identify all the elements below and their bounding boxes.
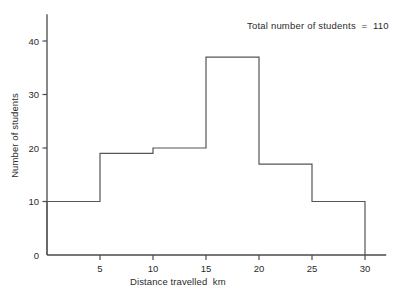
chart-figure: Total number of students = 110 Number of… — [0, 0, 420, 294]
histogram-outline — [47, 57, 365, 255]
x-tick-label: 10 — [148, 263, 159, 274]
y-tick-label: 40 — [28, 36, 39, 47]
y-tick-label: 0 — [34, 250, 39, 261]
tick-marks — [43, 41, 366, 260]
tick-labels: 01020304051015202530 — [28, 36, 370, 275]
x-tick-label: 25 — [307, 263, 318, 274]
x-tick-label: 30 — [360, 263, 371, 274]
histogram-bars — [47, 57, 365, 255]
y-tick-label: 30 — [28, 89, 39, 100]
x-tick-label: 15 — [201, 263, 212, 274]
x-tick-label: 20 — [254, 263, 265, 274]
x-tick-label: 5 — [97, 263, 102, 274]
y-tick-label: 20 — [28, 143, 39, 154]
histogram-plot-area: 01020304051015202530 — [0, 0, 420, 294]
axes — [47, 14, 386, 255]
y-tick-label: 10 — [28, 196, 39, 207]
